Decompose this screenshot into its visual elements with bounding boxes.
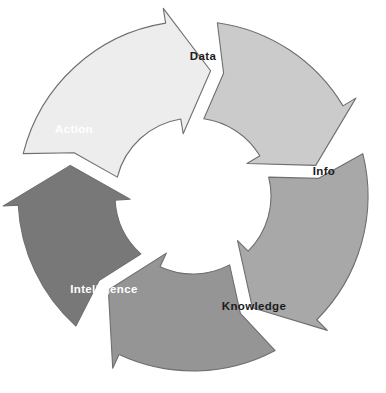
cycle-segment-knowledge[interactable] (238, 154, 368, 331)
cycle-segment-data[interactable] (23, 8, 210, 177)
cycle-segment-info[interactable] (204, 23, 356, 166)
cycle-diagram-canvas: DataInfoKnowledgeIntelligenceAction (0, 0, 386, 393)
segment-layer (3, 8, 368, 371)
cycle-diagram: DataInfoKnowledgeIntelligenceAction (0, 0, 386, 393)
